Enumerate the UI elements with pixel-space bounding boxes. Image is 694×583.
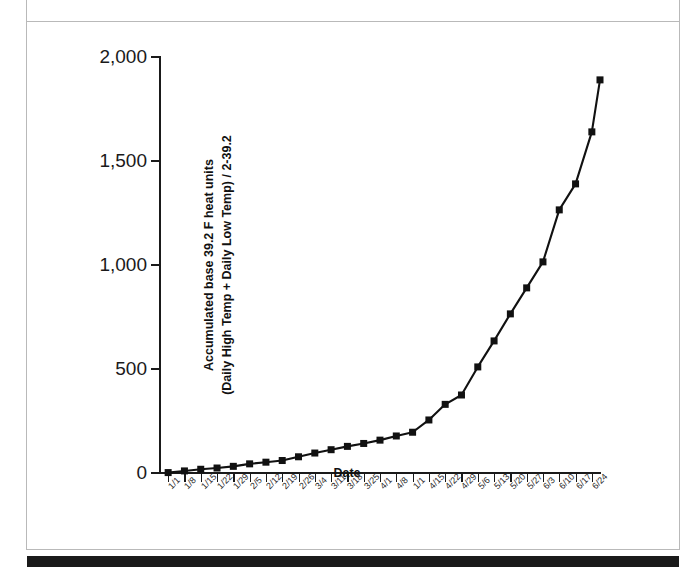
y-tick-mark: [151, 264, 160, 266]
y-tick-mark: [151, 56, 160, 58]
data-point-marker: [279, 457, 286, 464]
y-tick-label: 1,500: [99, 150, 147, 172]
data-point-marker: [393, 432, 400, 439]
series-line: [168, 80, 600, 473]
data-point-marker: [491, 337, 498, 344]
y-tick-mark: [151, 160, 160, 162]
data-point-marker: [588, 128, 595, 135]
data-point-marker: [556, 206, 563, 213]
data-point-marker: [344, 443, 351, 450]
data-point-marker: [311, 450, 318, 457]
data-point-marker: [442, 401, 449, 408]
data-point-marker: [539, 258, 546, 265]
plot-area: Accumulated base 39.2 F heat units (Dail…: [160, 57, 600, 473]
data-point-marker: [377, 437, 384, 444]
y-tick-label: 1,000: [99, 254, 147, 276]
data-point-marker: [425, 416, 432, 423]
data-point-marker: [474, 363, 481, 370]
data-point-marker: [523, 284, 530, 291]
x-axis-title: Date: [0, 466, 694, 480]
figure-title-bar: HEAT UNITS FOR HAIRY VETCH GROWTH & DEVE…: [27, 0, 679, 7]
data-point-marker: [409, 429, 416, 436]
title-divider: [27, 21, 679, 22]
footer-bar: [27, 556, 679, 567]
y-tick-label: 2,000: [99, 46, 147, 68]
data-point-marker: [597, 76, 604, 83]
series-markers: [165, 76, 604, 476]
data-point-marker: [295, 453, 302, 460]
data-point-marker: [572, 180, 579, 187]
data-point-marker: [360, 440, 367, 447]
y-tick-mark: [151, 368, 160, 370]
data-point-marker: [328, 446, 335, 453]
data-point-marker: [507, 310, 514, 317]
data-point-marker: [262, 459, 269, 466]
y-tick-label: 500: [115, 358, 147, 380]
series-plot: [160, 57, 600, 473]
data-point-marker: [458, 392, 465, 399]
